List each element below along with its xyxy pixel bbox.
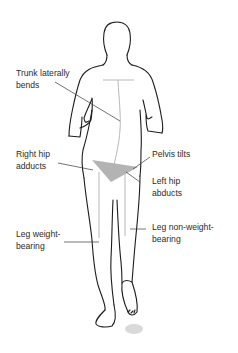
torso-right-outline: [132, 65, 163, 133]
head-outline: [104, 22, 131, 55]
gait-figure-illustration: [0, 0, 238, 353]
label-pelvis-tilts: Pelvis tilts: [152, 148, 190, 160]
label-trunk-laterally-bends: Trunk laterally bends: [16, 67, 70, 91]
label-left-hip-abducts: Left hip abducts: [152, 175, 182, 199]
right-hip-leader-line: [58, 163, 93, 170]
label-right-hip-adducts: Right hip adducts: [16, 148, 50, 172]
foot-shadow: [125, 324, 143, 334]
nonweight-leg-inner: [117, 200, 122, 283]
toes-outline: [128, 310, 135, 313]
weight-leg-outer: [84, 178, 105, 310]
neck-left-outline: [103, 55, 107, 65]
left-hip-leader-line: [126, 172, 140, 182]
spine-guide-line: [114, 80, 120, 165]
weight-leg-inner: [111, 200, 114, 305]
left-arm-outline: [69, 99, 92, 137]
right-flank-outline: [140, 110, 141, 176]
neck-right-outline: [127, 55, 132, 65]
label-leg-non-weight-bearing: Leg non-weight- bearing: [152, 221, 214, 245]
label-leg-weight-bearing: Leg weight- bearing: [16, 228, 60, 252]
pelvis-leader-line: [133, 157, 150, 169]
